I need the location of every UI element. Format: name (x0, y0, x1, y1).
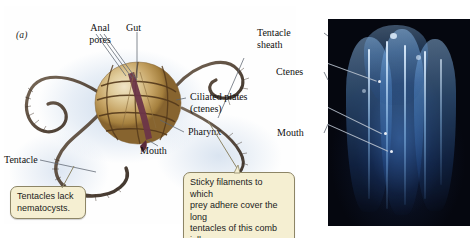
label-ciliated-plates-line1: Ciliated plates (190, 91, 248, 103)
label-tentacle: Tentacle (4, 154, 38, 166)
callout-sticky-filaments: Sticky filaments to which prey adhere co… (183, 172, 295, 238)
callout-2-line2: prey adhere cover the long (190, 200, 288, 223)
label-ciliated-plates-line2: (ctenes) (190, 103, 248, 115)
label-tentacle-sheath-line1: Tentacle (257, 27, 291, 39)
callout-2-line1: Sticky filaments to which (190, 177, 288, 200)
label-mouth-a: Mouth (140, 145, 167, 157)
callout-2-tail (178, 115, 248, 175)
panel-b-photo: (b) Leucothea sp. (300, 0, 470, 238)
figure-comb-jelly: (a) (0, 0, 470, 238)
label-mouth-b: Mouth (277, 127, 304, 139)
panel-a-diagram: (a) (0, 0, 300, 238)
callout-1-line2: nematocysts. (17, 203, 79, 215)
callout-2-line3: tentacles of this comb jelly. (190, 223, 288, 238)
label-ctenes: Ctenes (276, 66, 303, 78)
callout-1-tail (46, 162, 106, 194)
label-anal-pores-line2: pores (83, 34, 117, 46)
label-anal-pores-line1: Anal (83, 22, 117, 34)
panel-b-leader-lines (300, 0, 470, 238)
label-tentacle-sheath-line2: sheath (257, 39, 291, 51)
label-ciliated-plates: Ciliated plates (ctenes) (190, 91, 248, 114)
label-anal-pores: Anal pores (83, 22, 117, 45)
label-tentacle-sheath: Tentacle sheath (257, 27, 291, 50)
label-gut: Gut (126, 22, 141, 34)
